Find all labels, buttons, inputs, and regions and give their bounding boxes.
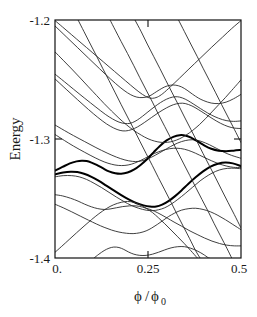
y-tick-label-bottom: -1.4 [29,251,50,266]
y-tick-label-top: -1.2 [29,13,50,28]
energy-spectrum-plot: -1.2 -1.3 -1.4 0. 0.25 0.5 Energy ϕ / ϕ … [0,0,257,317]
x-tick-label-mid: 0.25 [137,261,160,276]
y-axis-title: Energy [7,117,23,161]
x-axis-title-phi: ϕ [134,288,142,304]
x-axis-title-phi-denominator: ϕ [151,288,159,304]
figure-background [0,0,257,317]
x-axis-title-subscript: 0 [161,296,166,307]
y-tick-label-mid: -1.3 [29,132,50,147]
chart-figure: -1.2 -1.3 -1.4 0. 0.25 0.5 Energy ϕ / ϕ … [0,0,257,317]
x-tick-label-right: 0.5 [231,261,247,276]
x-tick-label-left: 0. [52,261,62,276]
